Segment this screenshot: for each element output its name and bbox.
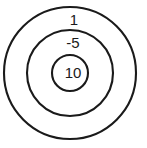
inner-ring-label: 10 (65, 64, 82, 81)
middle-ring-label: -5 (66, 34, 79, 51)
outer-ring-label: 1 (70, 11, 78, 28)
target-diagram: 1 -5 10 (0, 0, 147, 148)
concentric-circles-svg: 1 -5 10 (0, 0, 147, 148)
